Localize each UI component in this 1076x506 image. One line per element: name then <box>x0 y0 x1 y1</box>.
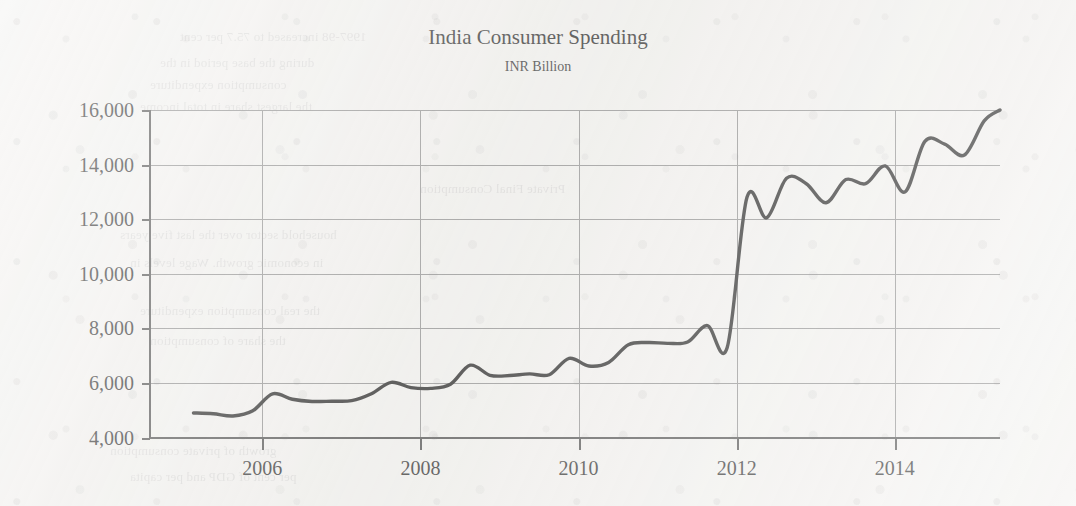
x-tick-label-2012: 2012 <box>717 457 757 479</box>
y-axis-tick-labels: 4,0006,0008,00010,00012,00014,00016,000 <box>79 99 150 449</box>
y-tick-label-16000: 16,000 <box>79 99 134 121</box>
x-tick-label-2008: 2008 <box>400 457 440 479</box>
x-axis-ticks: 20062008201020122014 <box>242 438 915 479</box>
y-tick-label-8000: 8,000 <box>89 317 134 339</box>
y-tick-label-4000: 4,000 <box>89 427 134 449</box>
chart-title: India Consumer Spending <box>428 25 648 49</box>
y-tick-label-6000: 6,000 <box>89 372 134 394</box>
y-tick-label-14000: 14,000 <box>79 154 134 176</box>
series-line-india-consumer-spending <box>193 110 1000 416</box>
line-chart: India Consumer Spending INR Billion 4,00… <box>0 0 1076 506</box>
chart-subtitle: INR Billion <box>505 59 572 74</box>
x-tick-label-2014: 2014 <box>875 457 915 479</box>
y-tick-label-12000: 12,000 <box>79 208 134 230</box>
x-tick-label-2010: 2010 <box>559 457 599 479</box>
grid-lines <box>150 110 1000 439</box>
y-tick-label-10000: 10,000 <box>79 263 134 285</box>
x-tick-label-2006: 2006 <box>242 457 282 479</box>
chart-container: India Consumer Spending INR Billion 4,00… <box>0 0 1076 506</box>
